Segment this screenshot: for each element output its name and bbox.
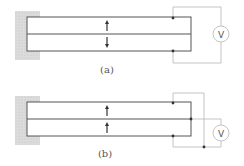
voltmeter-symbol: V: [218, 129, 225, 139]
node: [172, 102, 175, 105]
bimorph-diagram: V (a) V (b): [0, 0, 244, 166]
panel-b: V (b): [15, 93, 229, 159]
panel-a: V (a): [15, 7, 229, 75]
node: [190, 118, 193, 121]
voltmeter-icon: V: [213, 26, 229, 42]
voltmeter-icon: V: [213, 125, 229, 141]
panel-label-a: (a): [100, 64, 114, 75]
node: [172, 17, 175, 20]
node: [172, 50, 175, 53]
node: [203, 146, 206, 149]
panel-label-b: (b): [98, 148, 112, 159]
voltmeter-symbol: V: [218, 30, 225, 40]
node: [172, 135, 175, 138]
